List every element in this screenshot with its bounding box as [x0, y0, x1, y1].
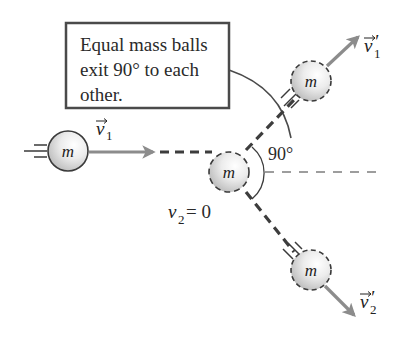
ball-exit-lower: m [291, 250, 331, 290]
label-v2-zero: v 2 = 0 [168, 201, 211, 227]
angle-arc [252, 147, 264, 199]
ball-incoming: m [48, 131, 88, 171]
callout-box: Equal mass balls exit 90° to each other. [66, 23, 229, 108]
callout-line-3: other. [80, 84, 123, 105]
exit-path-lower-dashes [246, 192, 294, 252]
svg-text:m: m [305, 261, 317, 280]
svg-text:1: 1 [106, 128, 113, 143]
elastic-collision-diagram: Equal mass balls exit 90° to each other.… [0, 0, 405, 341]
velocity-arrow-v1-prime [327, 37, 358, 66]
callout-line-1: Equal mass balls [80, 34, 208, 55]
velocity-arrow-v2-prime [325, 286, 354, 315]
svg-text:m: m [223, 163, 235, 182]
ball-target: m [209, 152, 249, 192]
svg-text:= 0: = 0 [186, 201, 211, 222]
label-v1-prime: v 1 ′ [364, 31, 381, 61]
svg-text:m: m [305, 72, 317, 91]
ball-exit-upper: m [291, 61, 331, 101]
exit-path-upper-dashes [246, 100, 294, 150]
label-v2-prime: v 2 ′ [360, 287, 377, 317]
svg-text:m: m [62, 142, 74, 161]
callout-line-2: exit 90° to each [80, 59, 199, 80]
svg-text:v: v [168, 201, 177, 222]
label-v1: v 1 [96, 118, 113, 143]
svg-text:2: 2 [178, 212, 185, 227]
angle-label: 90° [268, 144, 293, 164]
motion-lines [24, 145, 47, 157]
callout-leader-arc [229, 70, 291, 138]
